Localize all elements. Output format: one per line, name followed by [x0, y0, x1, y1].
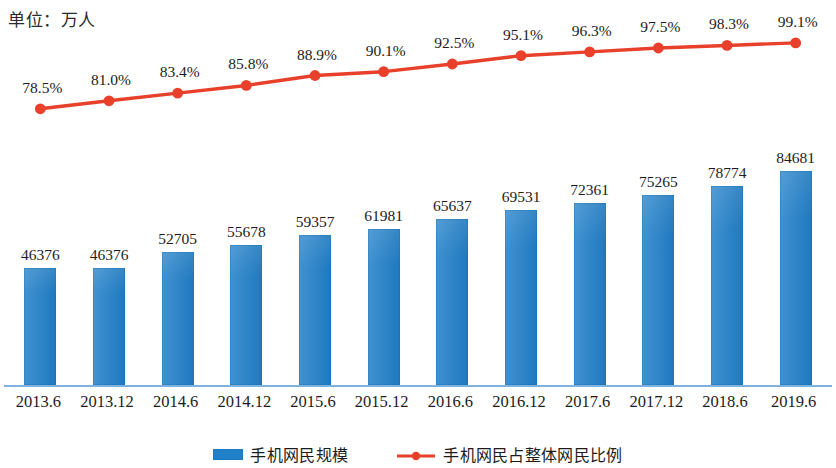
legend-bar-swatch-icon — [213, 449, 243, 460]
percentage-value-label: 97.5% — [627, 18, 693, 36]
bar[interactable] — [93, 268, 125, 385]
percentage-value-label: 78.5% — [9, 79, 75, 97]
bar[interactable] — [24, 268, 56, 385]
x-axis-label: 2015.6 — [280, 392, 346, 412]
bar-value-label: 78774 — [696, 164, 758, 182]
bar-value-label: 69531 — [490, 188, 552, 206]
legend-bar-label: 手机网民规模 — [250, 442, 348, 466]
bar-value-label: 52705 — [147, 230, 209, 248]
bar-column[interactable] — [627, 0, 689, 390]
bar-value-label: 72361 — [559, 181, 621, 199]
x-axis-line — [4, 385, 832, 387]
bar[interactable] — [436, 219, 468, 385]
percentage-value-label: 98.3% — [696, 15, 762, 33]
bar-column[interactable] — [421, 0, 483, 390]
percentage-value-label: 92.5% — [421, 34, 487, 52]
x-axis-labels: 2013.62013.122014.62014.122015.62015.122… — [0, 392, 836, 422]
legend-item-line[interactable]: 手机网民占整体网民比例 — [396, 442, 622, 466]
percentage-value-label: 85.8% — [215, 55, 281, 73]
x-axis-label: 2018.6 — [692, 392, 758, 412]
percentage-value-label: 96.3% — [559, 22, 625, 40]
legend-item-bar[interactable]: 手机网民规模 — [213, 442, 348, 466]
legend-line-label: 手机网民占整体网民比例 — [443, 442, 622, 466]
plot-area: 4637678.5%4637681.0%5270583.4%5567885.8%… — [0, 0, 836, 390]
x-axis-label: 2016.6 — [417, 392, 483, 412]
chart-legend: 手机网民规模 手机网民占整体网民比例 — [0, 440, 836, 468]
legend-line-marker-icon — [396, 448, 436, 460]
bar[interactable] — [162, 252, 194, 385]
bar-column[interactable] — [78, 0, 140, 390]
x-axis-label: 2019.6 — [761, 392, 827, 412]
bar-value-label: 65637 — [421, 197, 483, 215]
x-axis-label: 2014.12 — [211, 392, 277, 412]
bar[interactable] — [711, 186, 743, 385]
bar-value-label: 84681 — [765, 149, 827, 167]
percentage-value-label: 83.4% — [147, 63, 213, 81]
bar-value-label: 75265 — [627, 173, 689, 191]
x-axis-label: 2017.6 — [555, 392, 621, 412]
bar-value-label: 59357 — [284, 213, 346, 231]
x-axis-label: 2013.6 — [5, 392, 71, 412]
bar-value-label: 46376 — [9, 246, 71, 264]
x-axis-label: 2015.12 — [349, 392, 415, 412]
bar-column[interactable] — [696, 0, 758, 390]
percentage-value-label: 81.0% — [78, 71, 144, 89]
bar[interactable] — [780, 171, 812, 385]
x-axis-label: 2017.12 — [623, 392, 689, 412]
bar[interactable] — [230, 245, 262, 385]
percentage-value-label: 95.1% — [490, 26, 556, 44]
bar[interactable] — [299, 235, 331, 385]
x-axis-label: 2016.12 — [486, 392, 552, 412]
x-axis-label: 2013.12 — [74, 392, 140, 412]
bar[interactable] — [368, 229, 400, 385]
bar[interactable] — [642, 195, 674, 385]
chart-container: 单位：万人 4637678.5%4637681.0%5270583.4%5567… — [0, 0, 836, 468]
percentage-value-label: 99.1% — [765, 13, 831, 31]
percentage-value-label: 90.1% — [353, 42, 419, 60]
bar-value-label: 46376 — [78, 246, 140, 264]
bar-column[interactable] — [765, 0, 827, 390]
bar-column[interactable] — [9, 0, 71, 390]
x-axis-label: 2014.6 — [143, 392, 209, 412]
bar-value-label: 61981 — [353, 207, 415, 225]
bar-column[interactable] — [147, 0, 209, 390]
percentage-value-label: 88.9% — [284, 46, 350, 64]
bar[interactable] — [574, 203, 606, 385]
bar[interactable] — [505, 210, 537, 385]
bar-value-label: 55678 — [215, 223, 277, 241]
